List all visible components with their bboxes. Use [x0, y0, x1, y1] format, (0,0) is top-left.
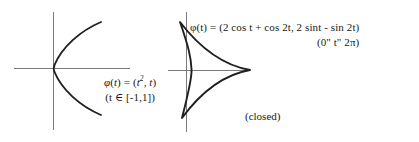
deltoid-domain: (0" t" 2π)	[190, 35, 359, 50]
parabola-equation-line1: φ(t) = (t2, t)	[104, 71, 156, 90]
parabola-equation: φ(t) = (t2, t) (t ∈ [-1,1])	[104, 71, 156, 105]
closed-annotation: (closed)	[245, 110, 280, 122]
deltoid-equation: φ(t) = (2 cos t + cos 2t, 2 sint - sin 2…	[190, 20, 359, 50]
paren-close: )	[153, 76, 157, 88]
equals-sign: ) = (	[117, 76, 137, 88]
parabola-domain: (t ∈ [-1,1])	[104, 90, 156, 105]
figure-canvas: φ(t) = (t2, t) (t ∈ [-1,1]) φ(t) = (2 co…	[0, 0, 419, 142]
deltoid-equation-line1: φ(t) = (2 cos t + cos 2t, 2 sint - sin 2…	[190, 20, 359, 35]
